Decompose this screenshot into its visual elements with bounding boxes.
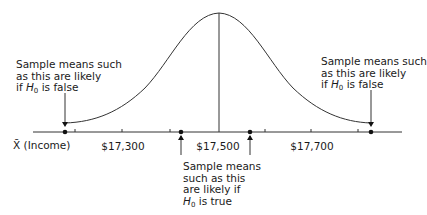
annotation-right-line3: if H0 is false xyxy=(321,79,427,95)
axis-label-text: (Income) xyxy=(24,139,71,151)
center-left-arrowhead-icon xyxy=(178,135,184,140)
axis-label: X̄ (Income) xyxy=(13,140,70,152)
annotation-center-line1: Sample means xyxy=(183,161,261,173)
annotation-left-line3: if H0 is false xyxy=(16,82,122,98)
center-right-arrowhead-icon xyxy=(247,135,253,140)
annotation-left-line1: Sample means such xyxy=(16,59,122,71)
annotation-right-line1: Sample means such xyxy=(321,56,427,68)
annotation-right: Sample means such as this are likely if … xyxy=(321,56,427,95)
annotation-left: Sample means such as this are likely if … xyxy=(16,59,122,98)
annotation-center: Sample means such as this are likely if … xyxy=(183,161,261,211)
tick-label-17300: $17,300 xyxy=(101,140,144,152)
right-arrowhead-icon xyxy=(368,122,374,127)
left-arrowhead-icon xyxy=(62,122,68,127)
tick-label-17700: $17,700 xyxy=(290,140,333,152)
tick-label-17500: $17,500 xyxy=(196,140,239,152)
xbar-symbol: X̄ xyxy=(13,139,20,151)
annotation-center-line4: H0 is true xyxy=(183,196,261,212)
